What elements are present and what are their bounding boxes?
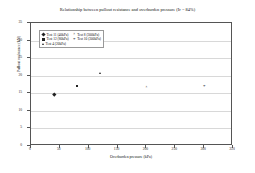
y-axis-title: Pullout resistance (kN) <box>17 4 21 104</box>
x-tick-mark <box>145 145 146 148</box>
y-tick-mark <box>27 22 30 23</box>
legend-label: Test 4 (20kPa) <box>46 42 66 46</box>
x-axis-title: Overburden pressure (kPa) <box>30 155 232 159</box>
x-tick-mark <box>30 145 31 148</box>
legend-label: Test 8 (300kPa) <box>77 33 99 37</box>
gridline <box>31 111 231 112</box>
x-tick-mark <box>174 145 175 148</box>
legend-label: Test 10 (300kPa) <box>77 37 101 41</box>
legend-label: Test 11 (40kPa) <box>47 33 69 37</box>
chart-legend: Test 11 (40kPa)×Test 8 (300kPa)Test 12 (… <box>39 30 104 48</box>
x-tick-mark <box>203 145 204 148</box>
x-tick-mark <box>88 145 89 148</box>
gridline <box>31 58 231 59</box>
y-tick-mark <box>27 75 30 76</box>
chart-figure: Relationship between pullout resistance … <box>0 0 255 173</box>
data-point <box>76 85 79 88</box>
y-tick-mark <box>27 40 30 41</box>
legend-item: Test 12 (80kPa) <box>42 37 69 41</box>
legend-item: ×Test 8 (300kPa) <box>73 33 101 37</box>
y-tick-label: 5 <box>8 125 22 129</box>
y-tick-mark <box>27 92 30 93</box>
legend-marker-icon: × <box>73 33 76 36</box>
x-tick-mark <box>59 145 60 148</box>
chart-title: Relationship between pullout resistance … <box>0 7 255 13</box>
y-tick-mark <box>27 127 30 128</box>
legend-item: Test 4 (20kPa) <box>42 42 69 46</box>
gridline <box>31 128 231 129</box>
gridline <box>31 93 231 94</box>
gridline <box>31 76 231 77</box>
legend-item: ✳Test 10 (300kPa) <box>73 37 101 41</box>
data-point: ✳ <box>203 85 206 88</box>
legend-marker-icon: ✳ <box>73 38 76 41</box>
data-point: × <box>145 86 148 89</box>
legend-item: Test 11 (40kPa) <box>42 33 69 37</box>
legend-marker-icon <box>41 32 45 36</box>
legend-marker-icon <box>42 38 45 41</box>
legend-label: Test 12 (80kPa) <box>47 37 69 41</box>
x-tick-mark <box>232 145 233 148</box>
data-point <box>99 72 101 74</box>
y-tick-label: 10 <box>8 108 22 112</box>
y-tick-mark <box>27 110 30 111</box>
legend-marker-icon <box>42 43 44 45</box>
data-point <box>52 92 56 96</box>
y-tick-mark <box>27 57 30 58</box>
x-tick-mark <box>117 145 118 148</box>
